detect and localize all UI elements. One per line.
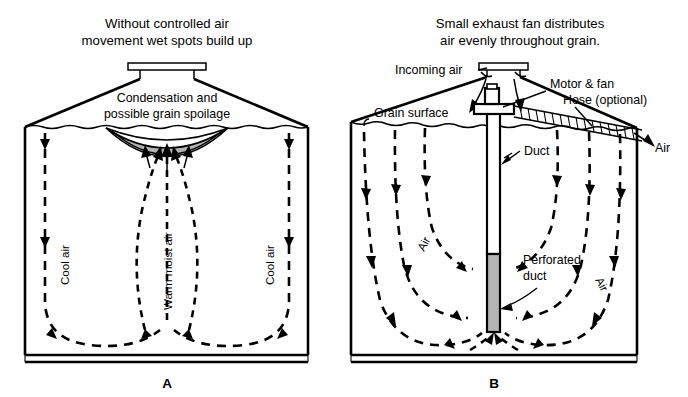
- duct-solid-section: [487, 112, 500, 254]
- panel-a-label-warm-moist-air: Warm moist air: [161, 232, 174, 310]
- motor-housing: [485, 88, 499, 104]
- panel-b-label-hose-optional: Hose (optional): [563, 93, 647, 107]
- panel-b-label-perforated-line2: duct: [523, 269, 547, 283]
- panel-a-title-line1: Without controlled air: [105, 16, 229, 31]
- perforated-duct-section: [487, 254, 500, 332]
- panel-a-title-line2: movement wet spots build up: [82, 33, 253, 48]
- panel-b-letter: B: [489, 376, 499, 391]
- grain-bin-airflow-figure: Without controlled air movement wet spot…: [0, 0, 688, 397]
- panel-b-label-motor-fan: Motor & fan: [550, 77, 614, 91]
- panel-a-letter: A: [162, 376, 172, 391]
- panel-b-label-duct: Duct: [524, 144, 550, 158]
- panel-b-label-air-exit: Air: [655, 141, 670, 155]
- panel-b-label-grain-surface: Grain surface: [374, 106, 448, 120]
- panel-a-label-cool-air-left: Cool air: [58, 245, 71, 285]
- panel-b-title-line2: air evenly throughout grain.: [440, 33, 600, 48]
- panel-a-callout-line2: possible grain spoilage: [104, 107, 230, 121]
- motor-cap: [487, 84, 497, 89]
- central-duct-b: [487, 112, 500, 332]
- panel-a-callout-line1: Condensation and: [117, 91, 218, 105]
- figure-background: [0, 0, 688, 397]
- panel-a-label-cool-air-right: Cool air: [263, 245, 276, 285]
- diagram-canvas: Without controlled air movement wet spot…: [0, 0, 688, 397]
- panel-b-title-line1: Small exhaust fan distributes: [436, 16, 605, 31]
- panel-b-label-incoming-air: Incoming air: [395, 63, 463, 77]
